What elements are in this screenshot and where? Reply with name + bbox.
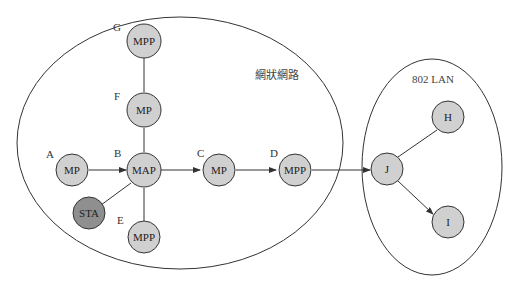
node-j-type: J (385, 163, 390, 175)
node-h-type: H (444, 111, 452, 123)
lan-title: 802 LAN (412, 73, 454, 85)
node-d-letter: D (270, 147, 278, 159)
node-d[interactable]: MPP D (270, 147, 311, 186)
node-h[interactable]: H (432, 101, 464, 133)
node-j[interactable]: J (371, 153, 403, 185)
node-f-letter: F (114, 90, 120, 102)
node-c-type: MP (211, 164, 227, 176)
node-sta[interactable]: STA (73, 197, 105, 229)
node-i[interactable]: I (432, 206, 464, 238)
node-a-letter: A (46, 148, 54, 160)
node-b-type: MAP (132, 164, 156, 176)
node-g-letter: G (113, 21, 121, 33)
node-g-type: MPP (133, 35, 155, 47)
mesh-network-diagram: 網狀網路 802 LAN MP A MAP B MP C MPP D MPP (0, 0, 518, 284)
node-a[interactable]: MP A (46, 148, 88, 186)
node-e-letter: E (117, 214, 124, 226)
node-e-type: MPP (133, 231, 155, 243)
node-f[interactable]: MP F (114, 90, 161, 127)
node-sta-type: STA (79, 207, 99, 219)
node-g[interactable]: MPP G (113, 21, 161, 58)
edge-b-sta (101, 183, 131, 205)
node-a-type: MP (64, 164, 80, 176)
node-d-type: MPP (284, 164, 306, 176)
mesh-network-title: 網狀網路 (255, 68, 299, 82)
node-b[interactable]: MAP B (114, 147, 161, 187)
edge-j-i (398, 181, 433, 214)
node-e[interactable]: MPP E (117, 214, 160, 253)
node-f-type: MP (136, 104, 152, 116)
edges (89, 58, 437, 221)
edge-j-h (398, 130, 437, 157)
mesh-network-region (17, 17, 343, 269)
node-i-type: I (446, 216, 450, 228)
node-c[interactable]: MP C (197, 147, 235, 186)
node-b-letter: B (114, 147, 121, 159)
node-c-letter: C (197, 147, 204, 159)
